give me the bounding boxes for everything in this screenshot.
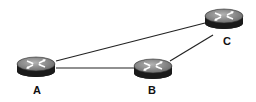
node-label-b: B	[148, 85, 156, 96]
router-icon-a[interactable]	[17, 57, 55, 77]
router-icon-b[interactable]	[134, 59, 172, 79]
router-icon-c[interactable]	[205, 9, 243, 29]
node-label-c: C	[223, 36, 231, 47]
link-a-c	[56, 23, 205, 61]
link-b-c	[170, 35, 213, 61]
node-label-a: A	[33, 85, 41, 96]
